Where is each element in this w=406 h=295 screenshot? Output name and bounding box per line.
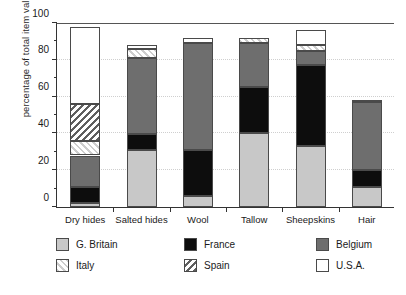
legend-label: Spain: [204, 260, 230, 271]
plot-area: 020406080100 Dry hidesSalted hidesWoolTa…: [56, 23, 394, 207]
x-tick: [226, 207, 227, 212]
legend-item[interactable]: France: [184, 238, 235, 251]
legend-swatch-icon: [184, 238, 197, 251]
y-tick-label: 100: [32, 7, 49, 18]
y-tick-label: 20: [38, 154, 49, 165]
legend-swatch-icon: [56, 238, 69, 251]
stacked-bar-chart: percentage of total item value 020406080…: [0, 0, 406, 295]
y-axis-title: percentage of total item value: [20, 0, 31, 139]
legend-label: Belgium: [336, 239, 372, 250]
legend-label: Italy: [76, 260, 94, 271]
y-tick-label: 80: [38, 44, 49, 55]
x-tick-label: Dry hides: [65, 214, 105, 225]
legend-swatch-icon: [56, 259, 69, 272]
x-tick-label: Salted hides: [115, 214, 167, 225]
legend-item[interactable]: Spain: [184, 259, 230, 272]
x-tick: [170, 207, 171, 212]
x-axis-line: [56, 207, 394, 208]
legend-item[interactable]: U.S.A.: [316, 259, 365, 272]
legend-label: U.S.A.: [336, 260, 365, 271]
y-tick: [52, 22, 57, 23]
legend-swatch-icon: [184, 259, 197, 272]
legend: G. BritainFranceBelgiumItalySpainU.S.A.: [56, 238, 396, 286]
y-tick-label: 0: [43, 191, 49, 202]
x-tick-label: Wool: [187, 214, 208, 225]
legend-item[interactable]: Italy: [56, 259, 94, 272]
legend-swatch-icon: [316, 259, 329, 272]
legend-item[interactable]: G. Britain: [56, 238, 118, 251]
legend-swatch-icon: [316, 238, 329, 251]
x-tick-label: Tallow: [241, 214, 267, 225]
y-tick-label: 60: [38, 81, 49, 92]
x-tick: [113, 207, 114, 212]
x-tick: [282, 207, 283, 212]
x-tick-label: Hair: [358, 214, 375, 225]
x-axis-ticks: Dry hidesSalted hidesWoolTallowSheepskin…: [57, 24, 394, 207]
y-tick-label: 40: [38, 117, 49, 128]
legend-label: France: [204, 239, 235, 250]
legend-item[interactable]: Belgium: [316, 238, 372, 251]
legend-label: G. Britain: [76, 239, 118, 250]
x-tick: [339, 207, 340, 212]
x-tick-label: Sheepskins: [286, 214, 335, 225]
